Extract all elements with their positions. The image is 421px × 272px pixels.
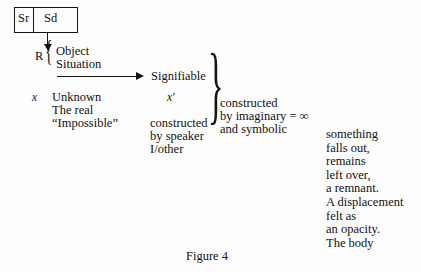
referent-label: R — [35, 49, 43, 64]
figure-caption: Figure 4 — [186, 249, 228, 264]
remnant-line: falls out, — [326, 142, 403, 156]
horizontal-arrow-shaft — [57, 76, 138, 78]
referent-brace: { — [45, 34, 53, 69]
remnant-line: felt as — [326, 210, 403, 224]
signifiable-label: Signifiable — [151, 69, 206, 84]
remnant-line: The body — [326, 237, 403, 251]
figure-canvas: Sr Sd R { Object Situation Signifiable x… — [0, 0, 421, 272]
remnant-line: A displacement — [326, 196, 403, 210]
remnant-text-block: something falls out, remains left over, … — [326, 128, 403, 250]
remnant-line: left over, — [326, 169, 403, 183]
sign-box-divider — [33, 7, 34, 33]
right-column-line-3: and symbolic — [220, 122, 287, 137]
remnant-line: something — [326, 128, 403, 142]
middle-column-line-3: I/other — [150, 142, 183, 157]
remnant-line: a remnant. — [326, 182, 403, 196]
remnant-line: remains — [326, 155, 403, 169]
left-column-variable: x — [32, 91, 37, 105]
sign-box-cell-sd: Sd — [44, 11, 57, 26]
middle-column-variable: x′ — [167, 91, 175, 105]
sign-box-cell-sr: Sr — [18, 11, 29, 26]
horizontal-arrow-head-icon — [136, 72, 144, 80]
referent-item-situation: Situation — [56, 57, 101, 72]
left-column-line-3: “Impossible” — [52, 116, 118, 131]
remnant-line: an opacity. — [326, 223, 403, 237]
